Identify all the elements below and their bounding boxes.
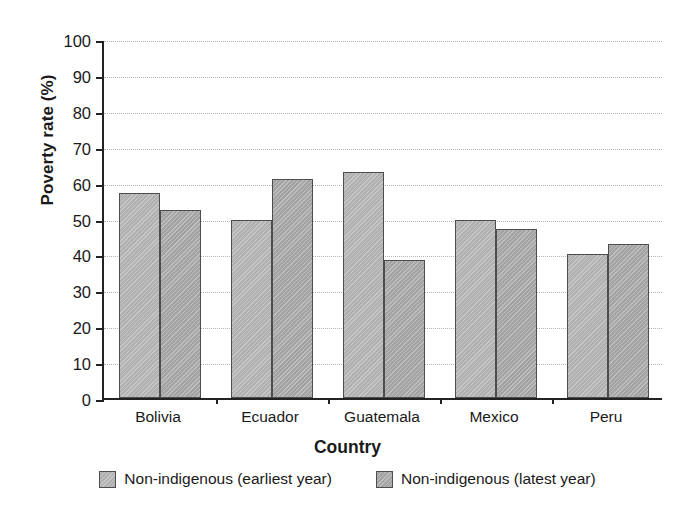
bar <box>343 172 384 398</box>
bar-series-layer <box>104 41 662 398</box>
legend-swatch-icon <box>376 471 393 488</box>
bar-group <box>231 41 313 398</box>
y-axis-tick <box>96 149 104 151</box>
x-axis-tick-label: Guatemala <box>344 408 420 426</box>
x-axis-title: Country <box>0 437 695 458</box>
y-axis-tick-label: 50 <box>73 211 91 230</box>
y-axis-tick-label: 20 <box>73 319 91 338</box>
plot-area: 1009080706050403020100 <box>102 41 662 400</box>
y-axis-tick <box>96 41 104 43</box>
legend-label: Non-indigenous (latest year) <box>401 470 596 488</box>
bar-group <box>119 41 201 398</box>
y-axis-tick-label: 60 <box>73 175 91 194</box>
y-axis-tick <box>96 256 104 258</box>
y-axis-tick <box>96 113 104 115</box>
bar <box>567 254 608 398</box>
y-axis-tick-label: 100 <box>63 32 91 51</box>
bar-chart: Poverty rate (%) 1009080706050403020100 … <box>0 0 695 516</box>
x-axis-tick <box>216 398 218 404</box>
y-axis-tick <box>96 328 104 330</box>
bar <box>455 220 496 398</box>
bar <box>119 193 160 398</box>
y-axis-tick <box>96 185 104 187</box>
x-axis-tick-label: Ecuador <box>241 408 299 426</box>
y-axis-tick-label: 90 <box>73 67 91 86</box>
bar-group <box>343 41 425 398</box>
y-axis-tick-label: 10 <box>73 355 91 374</box>
y-axis-tick <box>96 221 104 223</box>
legend-label: Non-indigenous (earliest year) <box>124 470 332 488</box>
x-axis-tick-label: Bolivia <box>135 408 181 426</box>
y-axis-title: Poverty rate (%) <box>38 30 58 250</box>
x-axis-tick <box>552 398 554 404</box>
x-axis-tick <box>328 398 330 404</box>
y-axis-tick <box>96 400 104 402</box>
legend-item[interactable]: Non-indigenous (latest year) <box>376 470 596 488</box>
y-axis-tick <box>96 292 104 294</box>
chart-legend: Non-indigenous (earliest year)Non-indige… <box>0 470 695 488</box>
bar <box>496 229 537 398</box>
y-axis-tick-label: 80 <box>73 103 91 122</box>
y-axis-tick <box>96 364 104 366</box>
legend-swatch-icon <box>99 471 116 488</box>
bar <box>231 220 272 398</box>
y-axis-tick-label: 0 <box>82 391 91 410</box>
bar <box>160 210 201 398</box>
y-axis-tick-label: 40 <box>73 247 91 266</box>
y-axis-tick-label: 30 <box>73 283 91 302</box>
bar <box>608 244 649 398</box>
x-axis-tick-label: Peru <box>590 408 623 426</box>
y-axis-tick-label: 70 <box>73 139 91 158</box>
y-axis-tick <box>96 77 104 79</box>
bar <box>384 260 425 398</box>
bar-group <box>455 41 537 398</box>
bar <box>272 179 313 398</box>
legend-item[interactable]: Non-indigenous (earliest year) <box>99 470 332 488</box>
bar-group <box>567 41 649 398</box>
x-axis-tick <box>440 398 442 404</box>
x-axis-tick-label: Mexico <box>469 408 518 426</box>
